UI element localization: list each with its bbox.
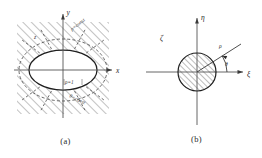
panel-b: ξ η ζ ρ θ (b) (131, 0, 262, 158)
panel-a: x y z ρ=1 ρ=const θ=const (a) (0, 0, 131, 158)
axis-arrow-x (107, 68, 113, 72)
axis-xi-label: ξ (247, 70, 251, 79)
plane-label-zeta: ζ (160, 34, 164, 43)
axis-arrow-xi (238, 70, 244, 74)
panel-a-svg: x y z ρ=1 ρ=const θ=const (0, 0, 131, 134)
caption-b: (b) (131, 134, 262, 144)
axis-eta-label: η (201, 13, 205, 22)
boundary-label: ρ=1 (64, 79, 74, 85)
axis-y-label: y (66, 8, 71, 17)
axis-arrow-y (61, 14, 65, 20)
figure-root: x y z ρ=1 ρ=const θ=const (a) (0, 0, 262, 158)
axis-arrow-eta (195, 18, 199, 24)
radius-label: ρ (218, 43, 222, 49)
angle-label: θ (225, 61, 228, 67)
caption-a: (a) (0, 136, 131, 146)
axis-x-label: x (115, 66, 120, 75)
panel-b-svg: ξ η ζ ρ θ (131, 0, 262, 134)
